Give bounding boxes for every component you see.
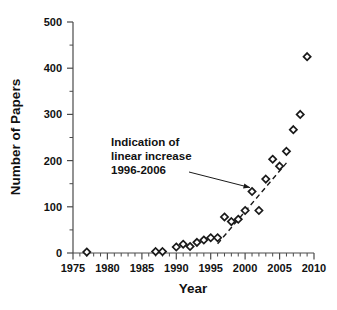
data-point (262, 175, 269, 182)
scatter-plot: 0 100 200 300 400 500 1975 1980 1985 199… (0, 0, 337, 310)
linear-increase-trendline (218, 163, 287, 244)
x-tick-label-1975: 1975 (61, 262, 85, 274)
data-point (290, 126, 297, 133)
annotation-line-3: 1996-2006 (111, 164, 166, 176)
data-point (283, 148, 290, 155)
data-point (304, 53, 311, 60)
x-tick-label-1990: 1990 (164, 262, 188, 274)
data-point (297, 111, 304, 118)
annotation-text-block: Indication of linear increase 1996-2006 (111, 136, 192, 176)
annotation-line-2: linear increase (111, 150, 192, 162)
axes-lines (73, 22, 314, 253)
x-tick-label-1980: 1980 (95, 262, 119, 274)
data-point (248, 188, 255, 195)
x-tick-label-1985: 1985 (130, 262, 154, 274)
data-point (83, 248, 90, 255)
data-point (221, 213, 228, 220)
annotation-leader (189, 172, 250, 188)
x-tick-label-2010: 2010 (302, 262, 326, 274)
y-tick-label-0: 0 (56, 247, 62, 259)
data-point (255, 207, 262, 214)
x-axis-major-ticks (73, 253, 314, 260)
x-axis-title: Year (179, 281, 208, 296)
y-axis-tick-labels: 0 100 200 300 400 500 (44, 16, 62, 259)
x-tick-label-2000: 2000 (233, 262, 257, 274)
annotation-line-1: Indication of (111, 136, 180, 148)
y-tick-label-200: 200 (44, 155, 62, 167)
y-tick-label-400: 400 (44, 62, 62, 74)
x-axis-tick-labels: 1975 1980 1985 1990 1995 2000 2005 2010 (61, 262, 326, 274)
y-tick-label-300: 300 (44, 108, 62, 120)
chart-figure: 0 100 200 300 400 500 1975 1980 1985 199… (0, 0, 337, 310)
y-tick-label-500: 500 (44, 16, 62, 28)
x-tick-label-2005: 2005 (267, 262, 291, 274)
data-point (276, 163, 283, 170)
x-tick-label-1995: 1995 (198, 262, 222, 274)
data-point (269, 156, 276, 163)
y-tick-label-100: 100 (44, 201, 62, 213)
data-point (159, 248, 166, 255)
y-axis-title: Number of Papers (8, 79, 23, 195)
